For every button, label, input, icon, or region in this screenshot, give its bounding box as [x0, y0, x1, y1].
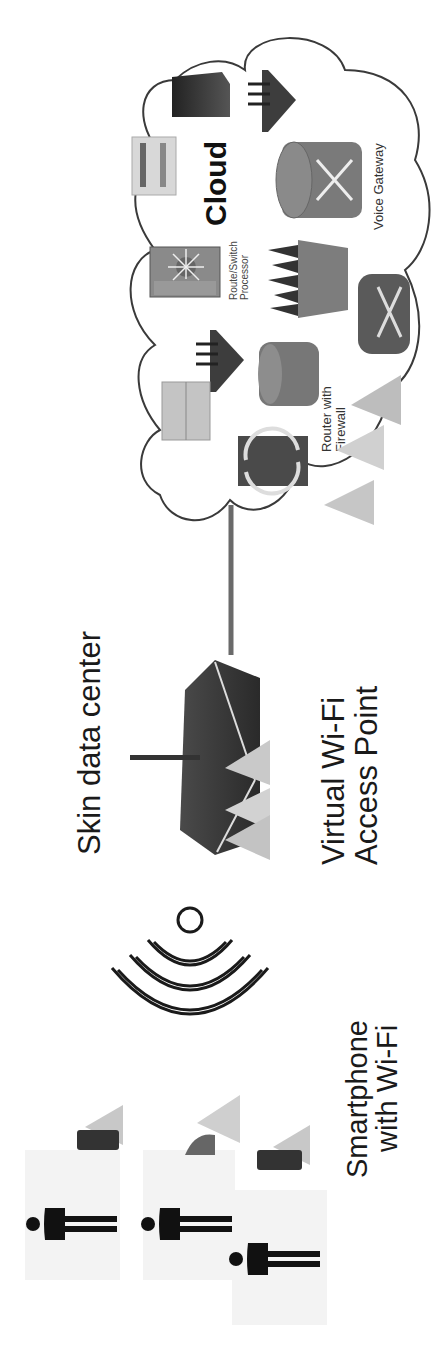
voice-gateway-icon: [272, 140, 367, 225]
access-point-label: Virtual Wi-Fi Access Point: [318, 686, 383, 865]
cloud-label: Cloud: [200, 141, 232, 226]
smartphone-label-line2: with Wi-Fi: [372, 1020, 402, 1178]
smartphone-label: Smartphone with Wi-Fi: [342, 1020, 403, 1178]
route-switch-label-line2: Processor: [239, 241, 250, 300]
access-point-label-line2: Access Point: [351, 686, 384, 865]
voice-gateway-label: Voice Gateway: [372, 143, 386, 230]
wifi-signal-icon: [100, 900, 300, 1030]
access-point-icon: [155, 660, 295, 860]
route-switch-label-line1: Route/Switch: [228, 241, 239, 300]
server-icon: [172, 72, 232, 122]
person-icon-1: [25, 1200, 125, 1250]
smartphone-label-line1: Smartphone: [342, 1020, 372, 1178]
route-switch-label: Route/Switch Processor: [228, 241, 250, 300]
person-icon-3: [228, 1235, 328, 1285]
firewall-icon: [268, 240, 353, 320]
signal-triangles-cloud: [296, 375, 436, 575]
smartphone-icon-3: [255, 1125, 315, 1185]
server-rack-icon: [160, 380, 215, 445]
access-point-label-line1: Virtual Wi-Fi: [318, 686, 351, 865]
route-switch-processor-icon: [148, 245, 223, 300]
router-icon: [356, 272, 416, 357]
smartphone-icon-2: [185, 1095, 245, 1160]
access-server-icon: [130, 135, 180, 200]
wired-link: [227, 505, 237, 665]
wireless-router-icon: [248, 60, 308, 140]
data-center-label: Skin data center: [74, 631, 107, 855]
person-icon-2: [140, 1200, 240, 1250]
smartphone-icon-1: [75, 1105, 130, 1165]
